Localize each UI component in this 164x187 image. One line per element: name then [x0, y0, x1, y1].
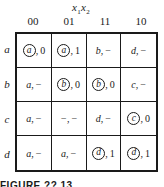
- column-headers: 00 01 11 10: [15, 15, 159, 29]
- row-label-b: b: [0, 67, 14, 102]
- row-label-d: d: [0, 137, 14, 172]
- stable-state-circle: b: [92, 78, 105, 91]
- cell-d-11: d,1: [87, 136, 122, 170]
- cell-a-00: a,0: [17, 34, 52, 68]
- stable-state-circle: a: [57, 44, 70, 57]
- cell-c-11: d,−: [87, 102, 122, 136]
- flow-table-grid: a,0 a,1 b,− d,− a,− b,0 b,0 c,− a,− −,− …: [15, 32, 158, 172]
- output-value: 0: [40, 45, 45, 56]
- output-value: 1: [145, 148, 150, 159]
- output-value: −: [71, 148, 77, 159]
- column-header-01: 01: [51, 15, 87, 29]
- stable-state-circle: b: [57, 78, 70, 91]
- row-label-a: a: [0, 32, 14, 67]
- next-state: −: [60, 113, 67, 124]
- stable-state-circle: c: [127, 112, 140, 125]
- output-value: 0: [110, 79, 115, 90]
- figure-caption: FIGURE ??.13: [0, 180, 73, 187]
- output-value: −: [36, 79, 42, 90]
- column-header-00: 00: [15, 15, 51, 29]
- column-variables-title: x1x2: [72, 1, 90, 16]
- output-value: −: [36, 113, 42, 124]
- cell-a-11: b,−: [87, 34, 122, 68]
- output-value: 0: [75, 79, 80, 90]
- cell-b-00: a,−: [17, 68, 52, 102]
- output-value: −: [140, 79, 146, 90]
- cell-a-10: d,−: [121, 34, 156, 68]
- row-labels: a b c d: [0, 32, 14, 172]
- output-value: −: [71, 113, 77, 124]
- cell-c-01: −,−: [52, 102, 87, 136]
- row-label-c: c: [0, 102, 14, 137]
- cell-b-01: b,0: [52, 68, 87, 102]
- output-value: 1: [75, 45, 80, 56]
- cell-b-11: b,0: [87, 68, 122, 102]
- cell-b-10: c,−: [121, 68, 156, 102]
- stable-state-circle: d: [127, 147, 140, 160]
- output-value: −: [141, 45, 147, 56]
- cell-c-10: c,0: [121, 102, 156, 136]
- output-value: 1: [110, 148, 115, 159]
- cell-c-00: a,−: [17, 102, 52, 136]
- stable-state-circle: a: [23, 44, 36, 57]
- output-value: −: [105, 45, 111, 56]
- column-header-11: 11: [87, 15, 123, 29]
- cell-d-10: d,1: [121, 136, 156, 170]
- cell-d-00: a,−: [17, 136, 52, 170]
- column-header-10: 10: [123, 15, 159, 29]
- output-value: −: [105, 113, 111, 124]
- stable-state-circle: d: [92, 147, 105, 160]
- cell-d-01: a,−: [52, 136, 87, 170]
- output-value: −: [36, 148, 42, 159]
- output-value: 0: [145, 113, 150, 124]
- cell-a-01: a,1: [52, 34, 87, 68]
